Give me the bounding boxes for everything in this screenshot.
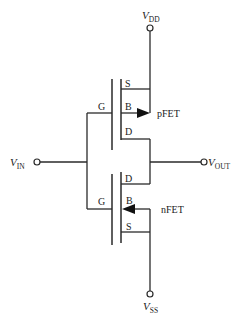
vout-terminal: VOUT [201,156,231,171]
nfet-drain-label: D [125,173,132,184]
nfet-transistor: D B S G nFET [87,172,184,245]
vss-label: VSS [143,300,158,315]
nfet-name-label: nFET [161,204,184,215]
vout-node [201,159,207,165]
vss-node [147,291,153,297]
pfet-gate-label: G [98,101,105,112]
nfet-body-label: B [126,195,133,206]
pfet-name-label: pFET [157,108,180,119]
vdd-terminal: VDD [142,9,160,31]
pfet-source-label: S [125,78,131,89]
pfet-body-arrow-icon [137,108,150,118]
vdd-node [147,25,153,31]
pfet-body-label: B [125,101,132,112]
nfet-gate-label: G [98,196,105,207]
vin-terminal: VIN [10,156,40,171]
vdd-label: VDD [142,9,160,24]
vin-node [34,159,40,165]
vss-terminal: VSS [143,291,158,315]
vin-label: VIN [10,156,25,171]
nfet-source-label: S [126,221,132,232]
pfet-transistor: S B D G pFET [87,78,180,150]
pfet-drain-label: D [125,126,132,137]
cmos-inverter-diagram: VDD S B D G pFET VOUT VIN [0,0,244,326]
vout-label: VOUT [208,156,231,171]
